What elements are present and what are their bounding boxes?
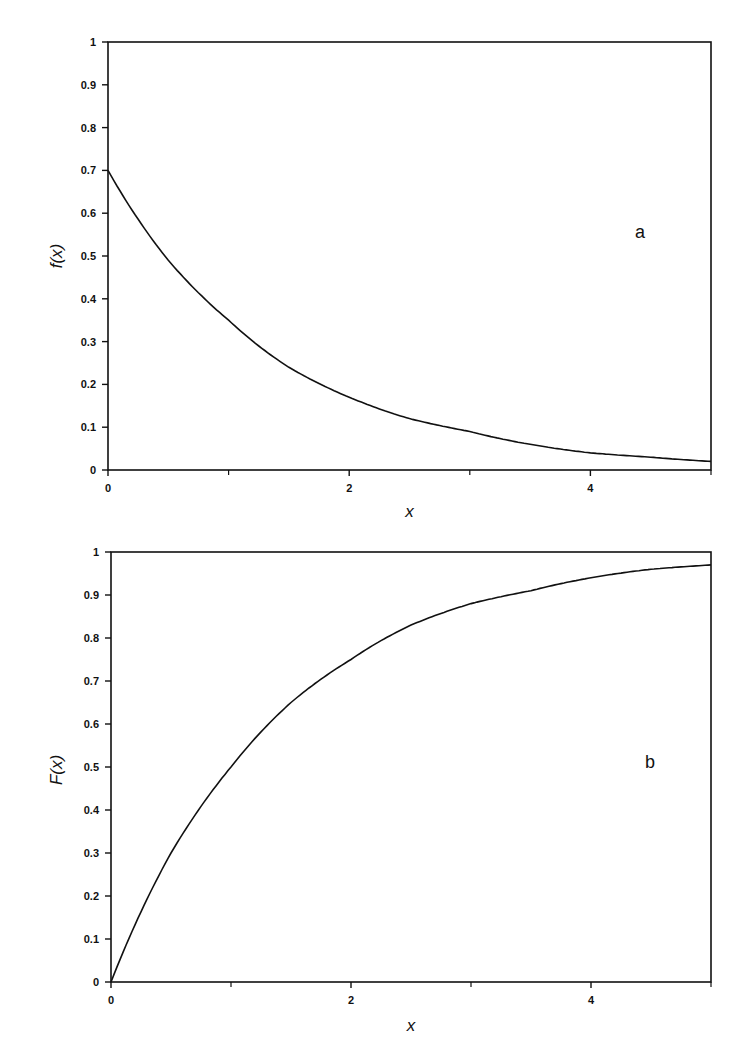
y-tick-label: 0 [90, 464, 96, 476]
x-axis-label: x [404, 502, 414, 521]
plot-frame [108, 42, 711, 470]
x-tick-label: 0 [105, 482, 111, 494]
y-tick-label: 0.6 [84, 718, 99, 730]
y-axis-label: F(x) [47, 755, 66, 785]
x-tick-label: 2 [346, 482, 352, 494]
y-tick-label: 1 [90, 36, 96, 48]
y-tick-label: 0.1 [81, 421, 96, 433]
y-tick-label: 0.3 [81, 336, 96, 348]
y-tick-label: 0.2 [84, 890, 99, 902]
y-axis-label: f(x) [47, 244, 66, 269]
y-tick-label: 0.6 [81, 207, 96, 219]
curve-f(x) [108, 170, 711, 461]
y-tick-label: 0.2 [81, 378, 96, 390]
x-tick-label: 4 [587, 482, 594, 494]
panel-label: a [635, 222, 646, 242]
y-tick-label: 0.8 [84, 632, 99, 644]
y-tick-label: 0.7 [84, 675, 99, 687]
x-tick-label: 4 [588, 994, 595, 1006]
y-tick-label: 0.5 [84, 761, 99, 773]
panel-label: b [645, 752, 655, 772]
x-tick-label: 0 [108, 994, 114, 1006]
y-tick-label: 0.4 [84, 804, 100, 816]
y-tick-label: 0.8 [81, 122, 96, 134]
y-tick-label: 1 [93, 546, 99, 558]
y-tick-label: 0.7 [81, 164, 96, 176]
y-tick-label: 0.4 [81, 293, 97, 305]
chart-panel-b: 00.10.20.30.40.50.60.70.80.91024xF(x)b [47, 546, 711, 1035]
y-tick-label: 0 [93, 976, 99, 988]
y-tick-label: 0.9 [84, 589, 99, 601]
y-tick-label: 0.9 [81, 79, 96, 91]
x-tick-label: 2 [348, 994, 354, 1006]
y-tick-label: 0.1 [84, 933, 99, 945]
y-tick-label: 0.5 [81, 250, 96, 262]
curve-F(x) [111, 565, 711, 982]
plot-frame [111, 552, 711, 982]
chart-panel-a: 00.10.20.30.40.50.60.70.80.91024xf(x)a [47, 36, 711, 521]
y-tick-label: 0.3 [84, 847, 99, 859]
x-axis-label: x [406, 1016, 416, 1035]
figure: 00.10.20.30.40.50.60.70.80.91024xf(x)a00… [0, 0, 749, 1056]
